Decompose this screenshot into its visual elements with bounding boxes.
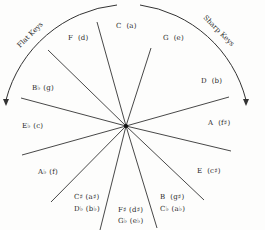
key-f: F (d) (68, 34, 88, 42)
key-d: D (b) (201, 77, 222, 85)
diagram-lines: Flat Keys Sharp Keys (0, 0, 265, 230)
flat-arrowhead-icon (3, 99, 9, 106)
key-e-flat: E♭ (c) (22, 122, 43, 130)
sharp-keys-label: Sharp Keys (202, 14, 236, 48)
sharp-arrowhead-icon (243, 99, 249, 106)
key-b: B (g♯) (160, 193, 184, 201)
flat-keys-label: Flat Keys (16, 20, 45, 49)
key-g: G (e) (163, 34, 184, 42)
sharp-keys-arc (140, 5, 246, 100)
center-point (124, 124, 128, 128)
key-a-flat: A♭ (f) (38, 168, 58, 176)
key-c-sharp: C♯ (a♯) (74, 193, 99, 201)
key-b-flat: B♭ (g) (32, 84, 54, 92)
circle-of-fifths-diagram: Flat Keys Sharp Keys C (a) G (e) D (b) A… (0, 0, 265, 230)
key-a: A (f♯) (208, 119, 230, 127)
flat-keys-arc (6, 5, 117, 100)
key-e: E (c♯) (197, 167, 221, 175)
key-f-sharp: F♯ (d♯) (118, 206, 143, 214)
key-c-flat: C♭ (a♭) (160, 205, 185, 213)
key-g-flat: G♭ (e♭) (118, 217, 143, 225)
key-d-flat: D♭ (b♭) (74, 205, 100, 213)
key-c: C (a) (116, 22, 137, 30)
